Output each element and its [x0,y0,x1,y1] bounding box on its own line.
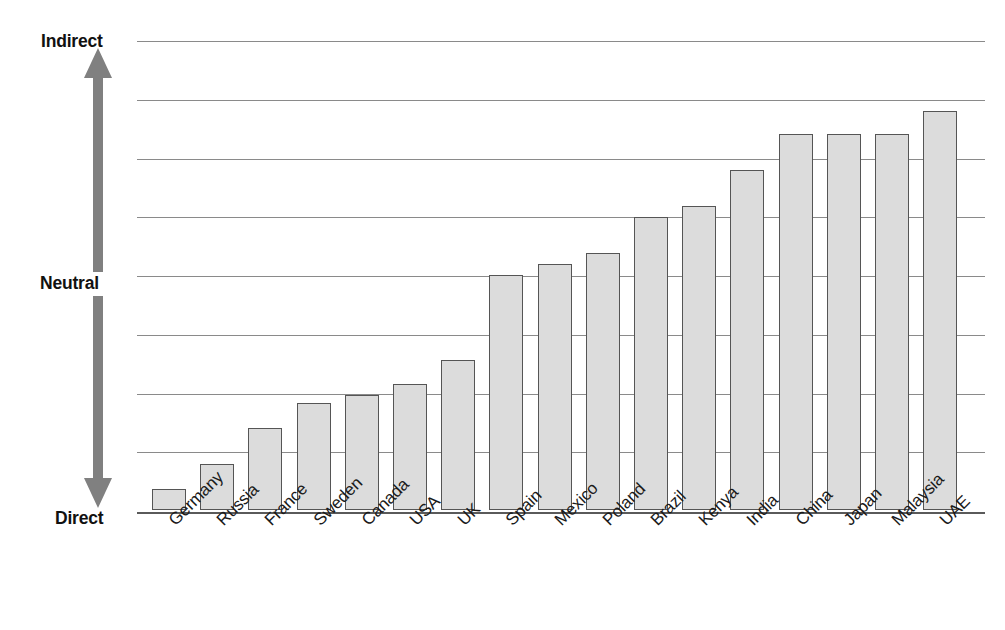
bar-brazil [634,217,668,510]
bar-japan [827,134,861,510]
axis-label-indirect: Indirect [41,31,103,52]
bar-india [730,170,764,510]
bar-uk [441,360,475,510]
bar-malaysia [875,134,909,510]
axis-label-direct: Direct [55,508,103,529]
category-axis-labels: GermanyRussiaFranceSwedenCanadaUSAUKSpai… [137,516,1005,630]
bar-kenya [682,206,716,510]
communication-style-chart: Indirect Neutral Direct GermanyRussiaFra… [0,0,1005,630]
plot-area [137,40,985,514]
bars-layer [137,40,985,512]
bar-spain [489,275,523,510]
bar-uae [923,111,957,511]
bar-poland [586,253,620,510]
axis-label-neutral: Neutral [38,272,103,296]
bar-mexico [538,264,572,510]
bar-china [779,134,813,510]
